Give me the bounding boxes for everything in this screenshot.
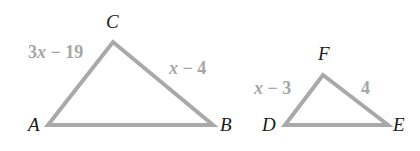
vertex-label-e: E bbox=[392, 114, 405, 135]
side-label-ac: 3x − 19 bbox=[28, 42, 83, 62]
similar-triangles-figure: A B C 3x − 19 x − 4 D E F x − 3 4 bbox=[0, 0, 420, 151]
vertex-label-a: A bbox=[26, 114, 40, 135]
vertex-label-b: B bbox=[220, 114, 232, 135]
side-label-df: x − 3 bbox=[253, 78, 291, 98]
triangle-def: D E F x − 3 4 bbox=[253, 43, 405, 135]
vertex-label-c: C bbox=[106, 11, 119, 32]
vertex-label-d: D bbox=[261, 114, 276, 135]
triangle-def-outline bbox=[285, 75, 388, 125]
side-label-cb: x − 4 bbox=[168, 58, 206, 78]
triangle-abc: A B C 3x − 19 x − 4 bbox=[26, 11, 232, 135]
side-label-fe: 4 bbox=[361, 78, 370, 98]
vertex-label-f: F bbox=[317, 43, 330, 64]
